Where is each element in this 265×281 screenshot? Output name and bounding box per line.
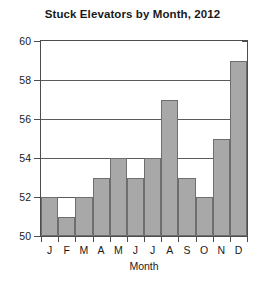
x-axis-tick-label: J bbox=[127, 244, 144, 256]
y-axis-tick bbox=[34, 197, 40, 198]
y-axis-tick bbox=[34, 41, 40, 42]
x-axis-tick bbox=[110, 237, 111, 242]
bar bbox=[58, 217, 75, 237]
bar bbox=[110, 158, 127, 236]
bar bbox=[196, 197, 213, 236]
x-axis-tick bbox=[127, 237, 128, 242]
bar bbox=[161, 100, 178, 237]
x-axis-tick-label: M bbox=[75, 244, 92, 256]
y-axis-label: 58 bbox=[3, 75, 31, 85]
x-axis-tick-label: F bbox=[58, 244, 75, 256]
x-axis-tick bbox=[196, 237, 197, 242]
x-axis-labels: JFMAMJJASOND bbox=[41, 244, 247, 256]
x-axis-tick-label: A bbox=[93, 244, 110, 256]
y-axis-label: 50 bbox=[3, 231, 31, 241]
x-axis-tick-label: S bbox=[178, 244, 195, 256]
bar bbox=[178, 178, 195, 237]
x-axis-tick bbox=[213, 237, 214, 242]
bar bbox=[93, 178, 110, 237]
x-axis-tick bbox=[75, 237, 76, 242]
x-axis-tick-label: O bbox=[196, 244, 213, 256]
bar bbox=[75, 197, 92, 236]
x-axis-tick-label: J bbox=[41, 244, 58, 256]
bar-chart: Stuck Elevators by Month, 2012 505254565… bbox=[0, 0, 265, 281]
y-axis-tick bbox=[34, 119, 40, 120]
x-axis-tick bbox=[41, 237, 42, 242]
y-axis-label: 52 bbox=[3, 192, 31, 202]
bar bbox=[144, 158, 161, 236]
x-axis-tick bbox=[178, 237, 179, 242]
chart-title: Stuck Elevators by Month, 2012 bbox=[0, 7, 265, 21]
y-axis-tick bbox=[34, 158, 40, 159]
bar bbox=[41, 197, 58, 236]
x-axis-tick bbox=[93, 237, 94, 242]
y-axis-tick bbox=[34, 236, 40, 237]
y-axis-label: 56 bbox=[3, 114, 31, 124]
bar bbox=[230, 61, 247, 237]
bar-series bbox=[41, 41, 247, 236]
y-axis-label: 54 bbox=[3, 153, 31, 163]
x-axis-tick-label: J bbox=[144, 244, 161, 256]
x-axis-tick-label: D bbox=[230, 244, 247, 256]
x-axis-title: Month bbox=[40, 260, 248, 272]
x-axis-tick bbox=[144, 237, 145, 242]
bar bbox=[127, 178, 144, 237]
y-axis-label: 60 bbox=[3, 36, 31, 46]
bar bbox=[213, 139, 230, 237]
y-axis-tick bbox=[34, 80, 40, 81]
x-axis-tick-label: N bbox=[213, 244, 230, 256]
x-axis-tick bbox=[58, 237, 59, 242]
x-axis-tick bbox=[247, 237, 248, 242]
x-axis-tick bbox=[161, 237, 162, 242]
x-axis-tick bbox=[230, 237, 231, 242]
x-axis-tick-label: M bbox=[110, 244, 127, 256]
x-axis-tick-label: A bbox=[161, 244, 178, 256]
